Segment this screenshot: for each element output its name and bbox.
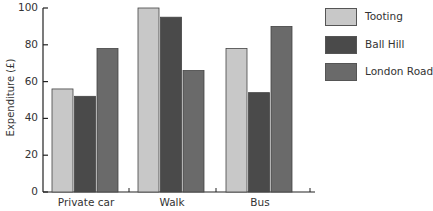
- bar-ball-hill: [249, 93, 270, 192]
- x-tick-label: Walk: [132, 196, 212, 208]
- legend-swatch-icon: [325, 8, 357, 26]
- y-tick-label: 40: [14, 111, 38, 123]
- y-tick-label: 20: [14, 148, 38, 160]
- bar-tooting: [226, 48, 247, 192]
- bar-tooting: [138, 8, 159, 192]
- y-axis-label: Expenditure (£): [5, 48, 16, 148]
- y-tick-label: 80: [14, 38, 38, 50]
- bar-london-road: [183, 71, 204, 192]
- x-tick-label: Bus: [220, 196, 300, 208]
- legend-label: London Road: [365, 65, 433, 77]
- bar-ball-hill: [75, 96, 96, 192]
- bar-tooting: [52, 89, 73, 192]
- y-tick-label: 100: [14, 1, 38, 13]
- bar-ball-hill: [161, 17, 182, 192]
- legend-label: Ball Hill: [365, 38, 404, 50]
- y-tick-label: 0: [14, 185, 38, 197]
- bar-london-road: [97, 48, 118, 192]
- legend-swatch-icon: [325, 63, 357, 81]
- y-tick-label: 60: [14, 75, 38, 87]
- legend-label: Tooting: [365, 10, 403, 22]
- x-tick-label: Private car: [46, 196, 126, 208]
- bar-london-road: [271, 26, 292, 192]
- legend-swatch-icon: [325, 36, 357, 54]
